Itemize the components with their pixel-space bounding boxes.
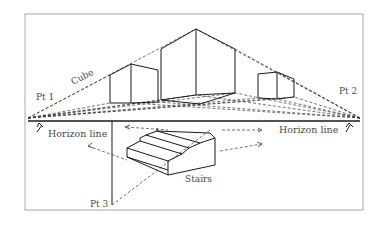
label-pt2: Pt 2 [339, 86, 357, 96]
label-pt3: Pt 3 [90, 199, 109, 209]
perspective-diagram: Pt 1 Pt 2 Pt 3 Cube Stairs Horizon line … [0, 0, 384, 233]
label-horizon-right: Horizon line [279, 124, 339, 135]
label-stairs: Stairs [185, 174, 212, 184]
label-pt1: Pt 1 [36, 92, 54, 102]
label-horizon-left: Horizon line [48, 128, 108, 139]
